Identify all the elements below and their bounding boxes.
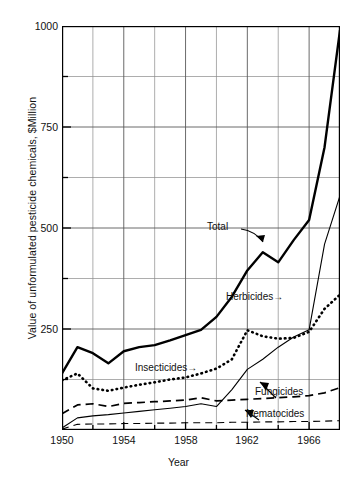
annotation-insecticides: Insecticides→ — [135, 362, 197, 373]
y-tick-1000: 1000 — [12, 20, 58, 32]
y-axis-tick-labels: 1000 750 500 250 — [8, 26, 58, 430]
annotation-fungicides: Fungicides — [255, 386, 303, 397]
annotation-total: Total — [207, 221, 228, 232]
plot-area — [62, 26, 340, 430]
y-tick-250: 250 — [12, 323, 58, 335]
total-pointer-head — [256, 235, 265, 242]
y-tick-750: 750 — [12, 121, 58, 133]
x-tick-1962: 1962 — [235, 434, 258, 446]
x-axis-tick-labels: 1950 1954 1958 1962 1966 — [62, 434, 340, 450]
x-tick-1954: 1954 — [112, 434, 135, 446]
x-tick-1966: 1966 — [297, 434, 320, 446]
series-nematocides — [62, 421, 340, 429]
data-series-layer — [62, 30, 340, 429]
pesticide-value-line-chart: Value of unformulated pesticide chemical… — [0, 0, 357, 492]
x-axis-title: Year — [0, 456, 357, 468]
annotation-nematocides: Nematocides — [246, 408, 304, 419]
major-gridlines — [62, 26, 340, 430]
total-pointer-line — [241, 229, 263, 242]
series-insecticides — [62, 295, 340, 391]
x-tick-1950: 1950 — [50, 434, 73, 446]
figure-caption — [0, 482, 357, 492]
series-total — [62, 30, 340, 373]
annotation-herbicides: Herbicides→ — [226, 291, 283, 302]
x-tick-1958: 1958 — [174, 434, 197, 446]
chart-svg — [62, 26, 340, 430]
y-tick-500: 500 — [12, 222, 58, 234]
